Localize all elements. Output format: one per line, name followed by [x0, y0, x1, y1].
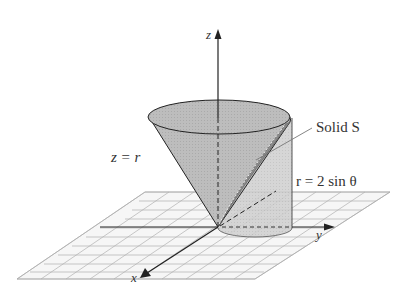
solid-s-label-text: Solid S — [316, 119, 360, 135]
xy-grid-plane — [17, 192, 390, 279]
cylinder-equation-label: r = 2 sin θ — [296, 174, 357, 189]
solid-s-label: Solid S — [316, 120, 360, 135]
x-axis-label: x — [131, 271, 137, 284]
z-axis-label: z — [206, 28, 211, 41]
diagram-canvas — [0, 0, 420, 288]
cone-equation-label: z = r — [111, 150, 140, 165]
z-axis-arrow-icon — [215, 29, 222, 39]
y-axis-label: y — [316, 228, 322, 241]
